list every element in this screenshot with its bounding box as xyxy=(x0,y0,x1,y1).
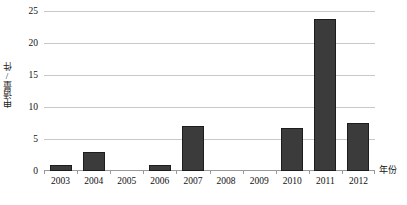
bar xyxy=(83,152,105,171)
x-axis-tick xyxy=(276,170,277,174)
y-tick-label: 15 xyxy=(29,70,39,80)
plot-area xyxy=(44,11,375,171)
x-tick-label: 2010 xyxy=(283,176,302,186)
x-tick-label: 2005 xyxy=(117,176,136,186)
x-axis-tick xyxy=(44,170,45,174)
x-axis-tick xyxy=(110,170,111,174)
x-axis-tick xyxy=(77,170,78,174)
x-tick-label: 2009 xyxy=(250,176,269,186)
x-axis-tick xyxy=(210,170,211,174)
bar-slot xyxy=(176,11,209,171)
bar-slot xyxy=(309,11,342,171)
bar-slot xyxy=(110,11,143,171)
y-tick-label: 10 xyxy=(29,102,39,112)
bar-slot xyxy=(342,11,375,171)
bar-slot xyxy=(243,11,276,171)
x-tick-label: 2007 xyxy=(183,176,202,186)
x-axis-tick-labels: 2003200420052006200720082009201020112012 xyxy=(44,176,375,196)
bar-series xyxy=(44,11,375,171)
x-tick-label: 2004 xyxy=(84,176,103,186)
x-tick-label: 2003 xyxy=(51,176,70,186)
x-axis-tick xyxy=(243,170,244,174)
x-axis-tick xyxy=(309,170,310,174)
x-axis-tick xyxy=(143,170,144,174)
bar xyxy=(50,165,72,171)
bar-slot xyxy=(276,11,309,171)
y-tick-label: 5 xyxy=(33,134,38,144)
x-axis-tick xyxy=(176,170,177,174)
y-tick-label: 0 xyxy=(33,166,38,176)
y-tick-label: 20 xyxy=(29,38,39,48)
bar xyxy=(314,19,336,171)
y-tick-label: 25 xyxy=(29,6,39,16)
bar-chart: 申请量/件 0510152025 20032004200520062007200… xyxy=(0,0,407,205)
bar-slot xyxy=(143,11,176,171)
bar xyxy=(182,126,204,171)
x-tick-label: 2006 xyxy=(150,176,169,186)
bar xyxy=(347,123,369,171)
bar xyxy=(149,165,171,171)
bar xyxy=(281,128,303,171)
x-tick-label: 2008 xyxy=(217,176,236,186)
x-axis-tick xyxy=(374,170,375,174)
x-tick-label: 2011 xyxy=(316,176,335,186)
bar-slot xyxy=(77,11,110,171)
x-tick-label: 2012 xyxy=(349,176,368,186)
bar-slot xyxy=(210,11,243,171)
x-axis-tick xyxy=(342,170,343,174)
bar-slot xyxy=(44,11,77,171)
y-axis-tick-labels: 0510152025 xyxy=(0,0,44,205)
x-axis-title: 年份 xyxy=(379,163,397,176)
